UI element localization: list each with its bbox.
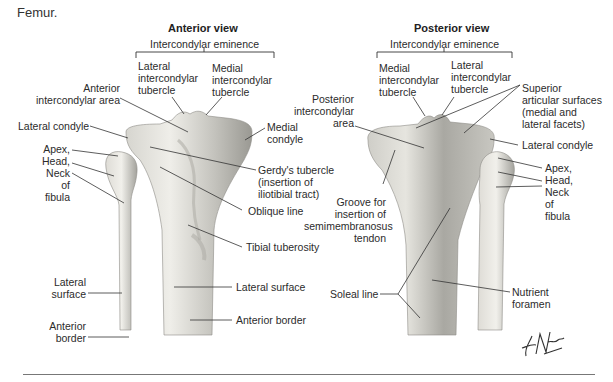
posterior-eminence-label: Intercondylar eminence <box>390 38 499 50</box>
posterior-lateral-tubercle-label: Lateralintercondylartubercle <box>451 59 511 95</box>
anterior-lateral-tubercle-label: Lateralintercondylartubercle <box>138 60 198 96</box>
posterior-fibula <box>478 152 514 330</box>
anterior-intercondylar-area-label: Anteriorintercondylar area <box>30 82 120 106</box>
semimembranosus-groove-label: Groove forinsertion ofsemimembranosusten… <box>304 196 386 244</box>
anterior-view-title: Anterior view <box>168 22 238 34</box>
posterior-medial-tubercle-label: Medialintercondylartubercle <box>379 62 439 98</box>
posterior-view-title: Posterior view <box>414 22 489 34</box>
fibula-anterior-border-label: Anteriorborder <box>30 320 86 344</box>
gerdys-tubercle-label: Gerdy's tubercle(insertion ofiliotibial … <box>258 164 334 200</box>
fibula-lateral-surface-label: Lateralsurface <box>30 276 86 300</box>
anterior-tibia <box>126 111 252 335</box>
nutrient-foramen-label: Nutrientforamen <box>512 286 551 310</box>
soleal-line-label: Soleal line <box>330 288 378 300</box>
posterior-lateral-condyle-label: Lateral condyle <box>522 139 593 151</box>
tibia-lateral-surface-label: Lateral surface <box>236 281 305 293</box>
anterior-medial-tubercle-label: Medialintercondylartubercle <box>212 62 272 98</box>
oblique-line-label: Oblique line <box>248 205 303 217</box>
anterior-eminence-label: Intercondylar eminence <box>150 38 259 50</box>
anterior-fibula-parts-label: Apex,Head,Neckoffibula <box>28 143 70 203</box>
tibia-anterior-border-label: Anterior border <box>236 314 306 326</box>
anterior-lateral-condyle-label: Lateral condyle <box>18 120 89 132</box>
bottom-divider <box>23 374 595 375</box>
posterior-fibula-parts-label: Apex,Head,Neckoffibula <box>545 162 573 222</box>
netter-signature: F. Netter M.D. <box>518 326 568 360</box>
anterior-fibula <box>106 152 137 330</box>
posterior-intercondylar-area-label: Posteriorintercondylararea <box>290 93 354 129</box>
superior-articular-surfaces-label: Superiorarticular surfaces(medial andlat… <box>522 82 602 130</box>
